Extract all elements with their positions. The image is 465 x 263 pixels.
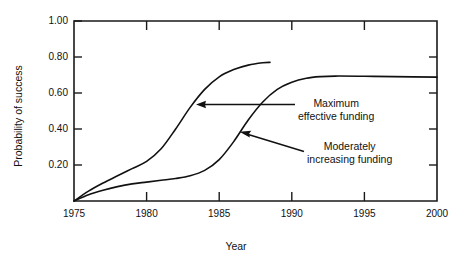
y-tick-label-0.80: 0.80 (34, 51, 68, 62)
x-axis-ticks-top (147, 21, 365, 30)
x-tick-label-1985: 1985 (199, 208, 239, 219)
x-tick-label-1975: 1975 (54, 208, 94, 219)
annotation-arrow-maximum-effective-funding (196, 101, 295, 108)
x-tick-label-1990: 1990 (272, 208, 312, 219)
chart-figure: 1.00 0.80 0.60 0.40 0.20 1975 1980 1985 … (0, 0, 465, 263)
x-axis-ticks (147, 192, 365, 201)
x-tick-label-1980: 1980 (127, 208, 167, 219)
y-tick-label-0.60: 0.60 (34, 87, 68, 98)
series-line-moderately-increasing-funding (74, 76, 437, 201)
x-tick-label-1995: 1995 (344, 208, 384, 219)
y-tick-label-0.40: 0.40 (34, 123, 68, 134)
annotation-0-line-2: effective funding (298, 110, 374, 123)
annotation-label-maximum-effective-funding: Maximum effective funding (298, 97, 374, 122)
annotation-label-moderately-increasing-funding: Moderately increasing funding (307, 140, 392, 165)
annotation-arrow-moderately-increasing-funding (240, 131, 305, 152)
y-axis-ticks (74, 21, 82, 165)
plot-area-svg (0, 0, 465, 263)
annot-1-arrowhead (240, 131, 252, 138)
y-axis-ticks-right (429, 57, 437, 165)
annot-1-leader (245, 134, 304, 152)
x-tick-label-2000: 2000 (417, 208, 457, 219)
x-axis-title: Year (206, 240, 266, 252)
annotation-1-line-2: increasing funding (307, 153, 392, 166)
y-axis-title: Probability of success (12, 51, 24, 181)
annot-0-arrowhead (196, 101, 206, 108)
y-tick-label-1.00: 1.00 (34, 15, 68, 26)
annotation-0-line-1: Maximum (298, 97, 374, 110)
annotation-1-line-1: Moderately (307, 140, 392, 153)
y-tick-label-0.20: 0.20 (34, 159, 68, 170)
